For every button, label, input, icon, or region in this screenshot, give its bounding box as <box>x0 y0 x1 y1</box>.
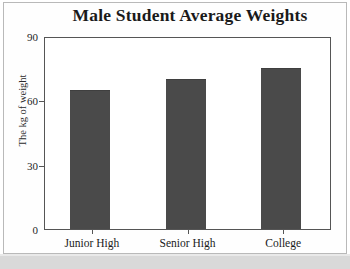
bar <box>166 79 206 229</box>
x-axis-tick-mark <box>92 230 93 234</box>
y-axis-tick-label-text: 90 <box>8 31 38 43</box>
y-axis-tick-label-text: 60 <box>8 95 38 107</box>
x-axis-tick-label: Senior High <box>160 237 216 249</box>
x-axis-tick-mark <box>188 230 189 234</box>
y-axis-label: The kg of weight <box>17 61 28 161</box>
plot-area <box>44 37 331 230</box>
scan-band <box>0 256 350 269</box>
x-axis-tick-label: College <box>265 237 301 249</box>
bars-layer <box>45 38 330 229</box>
bar <box>261 68 301 229</box>
x-axis-tick-label: Junior High <box>65 237 120 249</box>
y-axis-tick-label-text: 0 <box>8 224 38 236</box>
bar <box>70 90 110 229</box>
chart-page: Male Student Average Weights The kg of w… <box>0 0 350 269</box>
y-axis-tick-label-text: 30 <box>8 160 38 172</box>
chart-title: Male Student Average Weights <box>40 5 340 26</box>
x-axis-tick-mark <box>283 230 284 234</box>
